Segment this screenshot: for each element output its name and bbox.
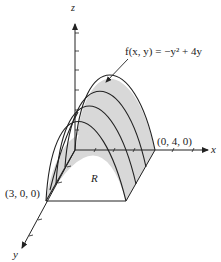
- diagram-canvas: [0, 0, 221, 262]
- x-axis-label: x: [211, 144, 216, 155]
- point-label-0-4-0: (0, 4, 0): [157, 136, 192, 147]
- function-label: f(x, y) = −y² + 4y: [125, 46, 202, 57]
- point-label-3-0-0: (3, 0, 0): [5, 188, 40, 199]
- region-label: R: [91, 173, 98, 184]
- z-axis-label: z: [71, 3, 75, 13]
- y-axis-label: y: [13, 249, 18, 260]
